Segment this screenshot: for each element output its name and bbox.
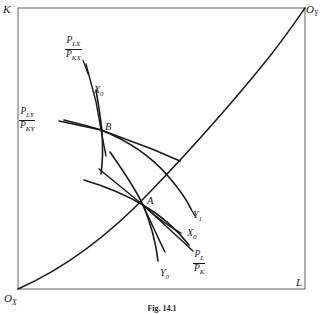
price-line-ply-pky: [59, 121, 180, 161]
plx-numerator: PLX: [65, 36, 82, 49]
origin-oy-sub: Y: [314, 9, 318, 18]
ply-denominator: PKY: [19, 120, 35, 134]
ply-numerator: PLY: [19, 107, 35, 120]
label-x0-lower: X0: [187, 228, 197, 241]
isoquant-y0: [84, 180, 189, 245]
origin-ox-letter: O: [4, 292, 12, 304]
isoquant-y1: [64, 120, 191, 209]
point-label-a: A: [147, 196, 153, 207]
plx-denominator: PKX: [65, 49, 82, 63]
point-label-b: B: [105, 122, 111, 133]
pl-den-sub: K: [200, 268, 205, 276]
isoquant-x0-lower: [110, 152, 158, 261]
ply-den-sub: KY: [26, 125, 35, 133]
contract-curve: [18, 8, 305, 289]
label-y0-sub: 0: [166, 273, 170, 281]
label-y1-sub: 1: [199, 215, 203, 223]
label-y1: Y1: [193, 210, 202, 223]
label-plx-pkx: PLX PKX: [65, 36, 82, 62]
edgeworth-box-figure: K L OY OX B A X0 X0 Y0 Y1 PLX PKX PLY PK…: [0, 0, 324, 314]
label-x0-upper-sub: 0: [100, 90, 104, 98]
label-y0: Y0: [160, 268, 169, 281]
plx-den-sub: KX: [72, 54, 81, 62]
origin-oy-letter: O: [306, 3, 314, 15]
box-frame: [18, 8, 305, 289]
pl-denominator: PK: [193, 263, 205, 277]
axis-label-l: L: [296, 277, 302, 288]
label-ply-pky: PLY PKY: [19, 107, 35, 133]
axis-label-k: K: [3, 4, 10, 15]
figure-caption: Fig. 14.1: [0, 304, 324, 313]
label-x0-upper: X0: [94, 85, 104, 98]
pl-num-sub: L: [200, 254, 204, 262]
label-pl-pk: PL PK: [193, 250, 205, 276]
price-line-plx-pkx: [86, 64, 106, 156]
ply-num-sub: LY: [26, 111, 34, 119]
plx-num-sub: LX: [72, 40, 80, 48]
pl-numerator: PL: [193, 250, 205, 263]
origin-label-oy: OY: [306, 4, 318, 18]
label-x0-lower-sub: 0: [193, 233, 197, 241]
